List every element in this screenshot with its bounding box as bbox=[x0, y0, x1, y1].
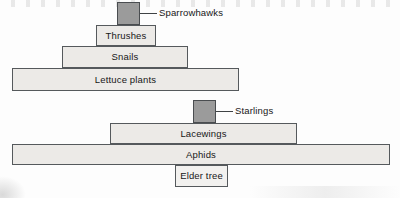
scan-artifact-bottom-right bbox=[250, 186, 400, 198]
leader-line-starlings bbox=[216, 111, 233, 112]
pyramid-level-aphids: Aphids bbox=[12, 144, 390, 165]
pyramid-level-lettuce-plants: Lettuce plants bbox=[12, 68, 239, 91]
pyramid-level-label-starlings: Starlings bbox=[235, 106, 273, 116]
ecological-pyramid-diagram: Sparrowhawks Thrushes Snails Lettuce pla… bbox=[0, 0, 400, 198]
pyramid-level-snails: Snails bbox=[62, 46, 188, 68]
pyramid-level-label-sparrowhawks: Sparrowhawks bbox=[159, 8, 223, 18]
pyramid-level-starlings bbox=[193, 100, 216, 123]
pyramid-level-sparrowhawks bbox=[117, 2, 140, 25]
pyramid-level-lacewings: Lacewings bbox=[110, 123, 297, 144]
scan-artifact-top-edge bbox=[0, 0, 400, 7]
pyramid-level-elder-tree: Elder tree bbox=[175, 165, 228, 187]
scan-artifact-bottom-left bbox=[0, 176, 26, 198]
leader-line-sparrowhawks bbox=[140, 13, 157, 14]
pyramid-level-thrushes: Thrushes bbox=[96, 25, 156, 46]
